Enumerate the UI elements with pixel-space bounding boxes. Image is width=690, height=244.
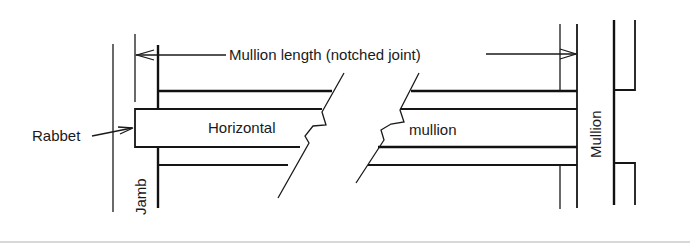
- rabbet-leader-line: [92, 128, 132, 136]
- dimension-mullion-length: Mullion length (notched joint): [136, 46, 576, 63]
- mullion-top-step: [614, 20, 635, 90]
- mullion-bottom-step: [614, 163, 635, 205]
- jamb-label: Jamb: [132, 178, 149, 215]
- rabbet-callout: Rabbet: [32, 127, 133, 144]
- horizontal-mullion-right: [356, 73, 577, 183]
- dimension-label: Mullion length (notched joint): [229, 46, 421, 63]
- bottom-rule: [0, 241, 690, 243]
- mullion-word-label: mullion: [409, 121, 457, 138]
- rabbet-label: Rabbet: [32, 127, 81, 144]
- horizontal-label: Horizontal: [208, 119, 276, 136]
- mullion-joint-diagram: Mullion length (notched joint) Rabbet Ho…: [0, 0, 690, 244]
- mullion-vertical-label: Mullion: [587, 110, 604, 158]
